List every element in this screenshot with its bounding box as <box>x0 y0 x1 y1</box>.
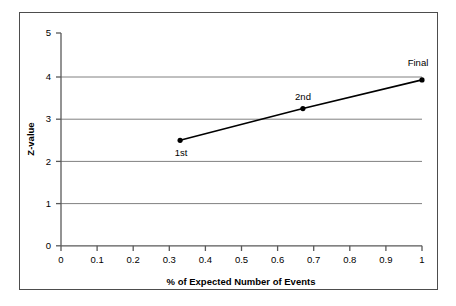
x-tick-label: 0.9 <box>379 254 392 265</box>
y-tick-label: 1 <box>46 198 51 209</box>
data-point-1st <box>178 138 183 143</box>
y-tick-label: 3 <box>46 113 51 124</box>
y-tick-labels: 0 1 2 3 4 5 <box>46 27 51 251</box>
x-tick-label: 0.8 <box>343 254 356 265</box>
y-axis-title: Z-value <box>25 122 36 155</box>
data-label-1st: 1st <box>175 147 188 158</box>
x-tick-label: 0.7 <box>307 254 320 265</box>
x-tick-label: 0.4 <box>199 254 212 265</box>
x-tick-label: 0.2 <box>127 254 140 265</box>
y-axis-ticks <box>56 33 61 246</box>
line-chart: 0 1 2 3 4 5 0 0.1 0.2 0.3 0.4 0.5 0.6 0.… <box>20 13 436 288</box>
data-markers <box>178 77 425 143</box>
chart-border: 0 1 2 3 4 5 0 0.1 0.2 0.3 0.4 0.5 0.6 0.… <box>19 12 438 290</box>
gridlines <box>61 77 422 204</box>
x-tick-label: 0.5 <box>235 254 248 265</box>
y-tick-label: 2 <box>46 156 51 167</box>
y-tick-label: 4 <box>46 71 51 82</box>
x-axis-title: % of Expected Number of Events <box>167 276 316 287</box>
figure: 0 1 2 3 4 5 0 0.1 0.2 0.3 0.4 0.5 0.6 0.… <box>0 0 456 306</box>
y-tick-label: 0 <box>46 240 51 251</box>
data-label-2nd: 2nd <box>295 91 311 102</box>
x-axis-ticks <box>61 246 422 251</box>
x-tick-label: 1 <box>419 254 424 265</box>
y-tick-label: 5 <box>46 27 51 38</box>
x-tick-label: 0.3 <box>163 254 176 265</box>
data-point-2nd <box>300 106 305 111</box>
x-tick-label: 0.6 <box>271 254 284 265</box>
x-tick-label: 0 <box>58 254 63 265</box>
data-label-final: Final <box>408 57 429 68</box>
x-tick-labels: 0 0.1 0.2 0.3 0.4 0.5 0.6 0.7 0.8 0.9 1 <box>58 254 424 265</box>
x-tick-label: 0.1 <box>90 254 103 265</box>
data-point-final <box>419 77 424 82</box>
